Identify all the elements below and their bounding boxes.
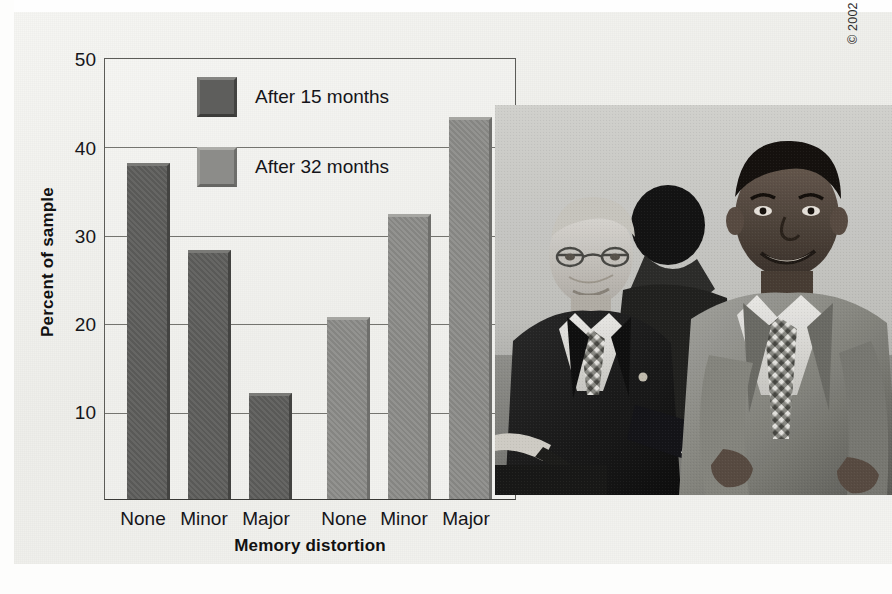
legend-swatch-icon-after-32-months xyxy=(197,147,237,187)
bar-32mo-major xyxy=(449,117,492,499)
figure-panel: Percent of sample 50 40 30 20 10 xyxy=(0,0,892,594)
y-tick-label-20: 20 xyxy=(52,314,96,336)
bar-face xyxy=(449,117,492,499)
y-tick-label-50: 50 xyxy=(52,49,96,71)
bar-face xyxy=(127,163,170,499)
legend-label-after-15-months: After 15 months xyxy=(255,86,389,108)
y-tick-label-10: 10 xyxy=(52,402,96,424)
bar-15mo-none xyxy=(127,163,170,499)
bar-15mo-major xyxy=(249,393,292,499)
bar-face xyxy=(249,393,292,499)
legend-swatch-icon-after-15-months xyxy=(197,77,237,117)
x-tick-label-major-2: Major xyxy=(420,508,512,530)
legend-item-after-15-months: After 15 months xyxy=(197,71,389,123)
courtroom-photo xyxy=(495,105,892,495)
legend: After 15 months After 32 months xyxy=(197,71,389,193)
photo-credit: © 2002 AP/Wide World Photos xyxy=(846,0,860,44)
y-tick-label-40: 40 xyxy=(52,138,96,160)
bar-face xyxy=(327,317,370,499)
bar-face xyxy=(188,250,231,499)
legend-label-after-32-months: After 32 months xyxy=(255,156,389,178)
bar-face xyxy=(388,214,431,499)
bar-32mo-none xyxy=(327,317,370,499)
y-axis-title: Percent of sample xyxy=(38,152,58,372)
bar-15mo-minor xyxy=(188,250,231,499)
legend-item-after-32-months: After 32 months xyxy=(197,141,389,193)
x-axis-title: Memory distortion xyxy=(104,536,516,556)
bar-32mo-minor xyxy=(388,214,431,499)
plot-area: After 15 months After 32 months xyxy=(104,58,516,500)
y-tick-label-30: 30 xyxy=(52,226,96,248)
